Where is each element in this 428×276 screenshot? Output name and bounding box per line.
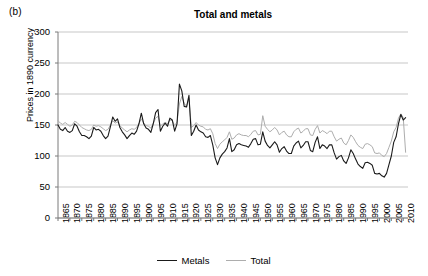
legend-item-total: Total — [226, 255, 270, 266]
legend-item-metals: Metals — [157, 255, 209, 266]
chart-legend: Metals Total — [0, 255, 428, 266]
legend-label-total: Total — [250, 255, 270, 266]
plot-area — [0, 0, 428, 276]
axis-tickmarks — [55, 32, 403, 221]
legend-label-metals: Metals — [181, 255, 209, 266]
chart-figure: (b) Total and metals Prices in 1890 curr… — [0, 0, 428, 276]
data-series — [58, 84, 406, 177]
legend-swatch-metals — [157, 260, 177, 261]
series-line-metals — [58, 84, 406, 177]
legend-swatch-total — [226, 260, 246, 261]
